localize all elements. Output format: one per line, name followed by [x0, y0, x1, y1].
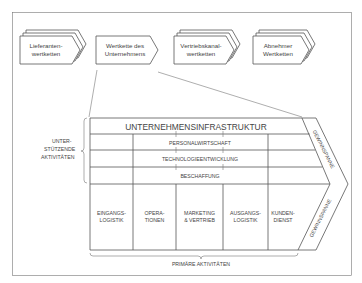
chain-company: Wertkette des Unternehmens — [96, 36, 158, 64]
chain-company-line1: Wertkette des — [106, 42, 144, 49]
support-label-line3: AKTIVITÄTEN — [41, 154, 75, 160]
primary-outbound-line2: LOGISTIK — [234, 217, 258, 223]
primary-marketing-line2: & VERTRIEB — [184, 217, 215, 223]
primary-operations-line1: OPERA- — [145, 210, 165, 216]
support-infrastructure: UNTERNEHMENSINFRASTRUKTUR — [125, 122, 266, 132]
chain-company-line2: Unternehmens — [105, 50, 146, 57]
value-chain-body: UNTERNEHMENSINFRASTRUKTUR PERSONALWIRTSC… — [90, 118, 348, 250]
primary-operations-line2: TIONEN — [145, 217, 165, 223]
chain-distribution-line1: Vertriebskanal- — [180, 42, 221, 49]
support-procurement: BESCHAFFUNG — [180, 173, 219, 179]
zoom-line-left — [89, 70, 97, 117]
zoom-line-right — [158, 72, 302, 117]
primary-inbound-line2: LOGISTIK — [100, 217, 124, 223]
chain-supplier-line2: wertketten — [31, 50, 61, 57]
primary-marketing-line1: MARKETING — [184, 210, 215, 216]
chain-buyer: Abnehmer Wertketten — [253, 30, 315, 64]
primary-service-line2: DIENST — [273, 217, 293, 223]
support-brace: UNTER- STÜTZENDE AKTIVITÄTEN — [41, 118, 87, 183]
primary-outbound-line1: AUSGANGS- — [230, 210, 261, 216]
support-technology: TECHNOLOGIEENTWICKLUNG — [162, 156, 238, 162]
support-label-line2: STÜTZENDE — [44, 146, 76, 152]
support-label-line1: UNTER- — [52, 138, 72, 144]
primary-bracket: PRIMÄRE AKTIVITÄTEN — [90, 253, 298, 267]
value-chain-diagram: Lieferanten- wertketten Wertkette des Un… — [0, 0, 362, 283]
primary-service-line1: KUNDEN- — [271, 210, 295, 216]
chain-distribution: Vertriebskanal- wertketten — [174, 30, 240, 64]
chain-buyer-line2: Wertketten — [263, 50, 293, 57]
chain-buyer-line1: Abnehmer — [264, 42, 293, 49]
primary-activities-label: PRIMÄRE AKTIVITÄTEN — [172, 261, 230, 267]
chain-supplier: Lieferanten- wertketten — [20, 30, 86, 64]
primary-inbound-line1: EINGANGS- — [97, 210, 126, 216]
chain-supplier-line1: Lieferanten- — [29, 42, 62, 49]
support-hr: PERSONALWIRTSCHAFT — [169, 140, 232, 146]
chain-distribution-line2: wertketten — [186, 50, 216, 57]
